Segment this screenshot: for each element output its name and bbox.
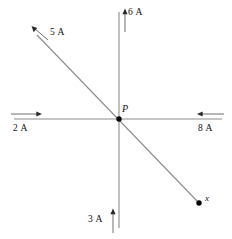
- arrow-6a-up: [122, 9, 127, 33]
- arrow-3a-up: [110, 209, 115, 234]
- arrow-2a-right: [11, 111, 42, 116]
- unknown-endpoint-dot: [196, 200, 201, 205]
- label-2a: 2 A: [13, 124, 28, 134]
- label-junction-p: P: [122, 104, 129, 114]
- label-5a: 5 A: [50, 28, 65, 38]
- arrow-8a-left: [197, 111, 224, 116]
- figure-canvas: [0, 0, 232, 239]
- current-junction-figure: 6 A 5 A P 2 A 8 A 3 A x: [0, 0, 232, 239]
- junction-dot: [116, 116, 121, 121]
- label-3a: 3 A: [88, 215, 103, 225]
- label-unknown-x: x: [205, 194, 209, 203]
- label-6a: 6 A: [128, 8, 143, 18]
- label-8a: 8 A: [198, 124, 213, 134]
